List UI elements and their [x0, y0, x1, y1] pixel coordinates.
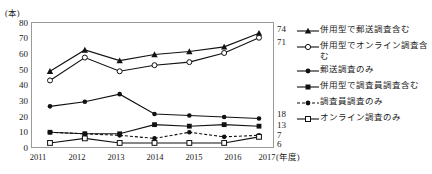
plot-area: [31, 22, 274, 148]
series-open-circle: [48, 35, 262, 83]
open-square-icon: [296, 113, 320, 125]
x-tick-2011: 2011: [18, 152, 58, 162]
y-tick-60: 60: [2, 50, 28, 59]
legend-label: 併用型でオンライン調査含む: [320, 40, 432, 61]
legend-label: 併用型で郵送調査含む: [320, 24, 410, 35]
y-tick-40: 40: [2, 81, 28, 90]
x-tick-2015: 2015: [174, 152, 214, 162]
y-tick-70: 70: [2, 34, 28, 43]
y-tick-10: 10: [2, 128, 28, 137]
chart-figure: (本) 80 70 60 50 40 30 20 10 0 2011 2012 …: [0, 0, 432, 174]
legend: 併用型で郵送調査含む 併用型でオンライン調査含む 郵送調査のみ 併用型で調査員調…: [296, 24, 432, 128]
legend-item-heiyou-online[interactable]: 併用型でオンライン調査含む: [296, 40, 432, 61]
legend-label: 郵送調査のみ: [320, 64, 374, 75]
end-label-13: 13: [277, 121, 286, 130]
legend-label: 併用型で調査員調査含む: [320, 80, 419, 91]
end-label-18: 18: [277, 110, 286, 119]
end-label-71: 71: [277, 38, 286, 47]
legend-label: オンライン調査のみ: [320, 112, 401, 123]
y-tick-20: 20: [2, 113, 28, 122]
x-tick-2012: 2012: [57, 152, 97, 162]
legend-item-yusou-only[interactable]: 郵送調査のみ: [296, 64, 432, 77]
series-filled-square: [48, 122, 262, 136]
filled-triangle-icon: [296, 25, 320, 37]
open-circle-icon: [296, 41, 320, 53]
y-tick-80: 80: [2, 19, 28, 28]
legend-item-heiyou-chousain[interactable]: 併用型で調査員調査含む: [296, 80, 432, 93]
x-axis-unit-label: (年度): [276, 152, 300, 162]
end-label-6: 6: [277, 140, 282, 149]
end-label-74: 74: [277, 25, 286, 34]
y-tick-50: 50: [2, 66, 28, 75]
x-tick-2014: 2014: [135, 152, 175, 162]
legend-item-online-only[interactable]: オンライン調査のみ: [296, 112, 432, 125]
series-filled-circle: [48, 92, 262, 121]
y-axis-unit-label: (本): [5, 8, 20, 18]
legend-label: 調査員調査のみ: [320, 96, 383, 107]
filled-circle-dashed-icon: [296, 97, 320, 109]
filled-square-icon: [296, 81, 320, 93]
series-canvas: [32, 23, 273, 147]
legend-item-heiyou-yusou[interactable]: 併用型で郵送調査含む: [296, 24, 432, 37]
y-tick-30: 30: [2, 97, 28, 106]
legend-item-chousain-only[interactable]: 調査員調査のみ: [296, 96, 432, 109]
x-tick-2013: 2013: [96, 152, 136, 162]
filled-circle-icon: [296, 65, 320, 77]
